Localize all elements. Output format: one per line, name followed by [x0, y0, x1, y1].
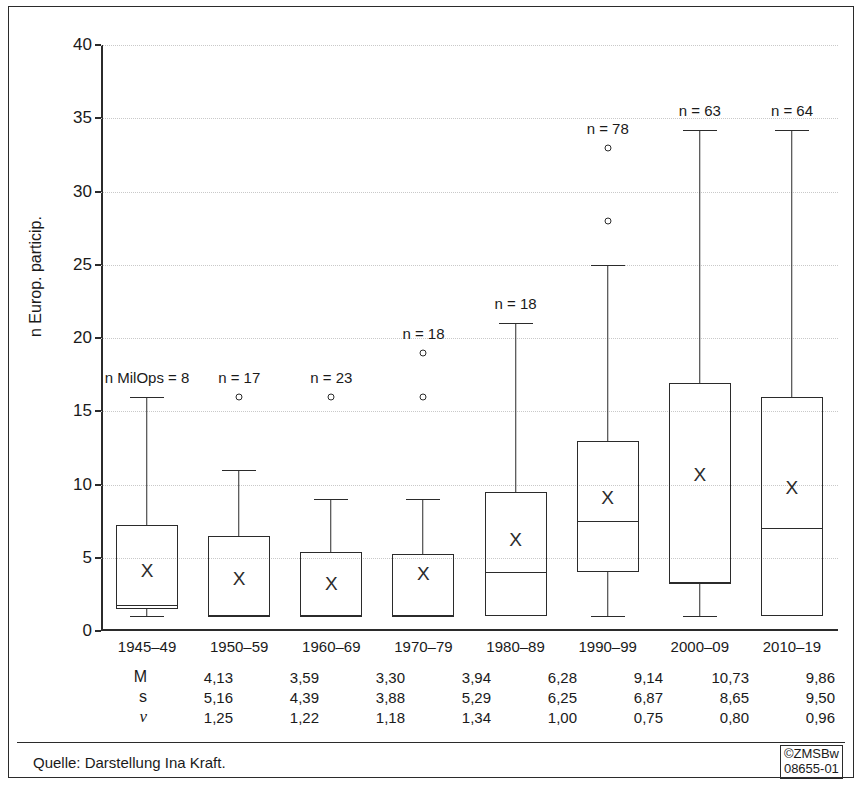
y-axis-tick-mark	[95, 630, 101, 632]
median-line	[761, 528, 823, 529]
statistics-cell: 0,75	[577, 707, 663, 727]
statistics-cell: 0,96	[749, 707, 835, 727]
statistics-cell: 6,28	[491, 667, 577, 687]
statistics-cell: 5,29	[405, 687, 491, 707]
y-axis-tick-mark	[95, 117, 101, 119]
footer-divider	[17, 742, 845, 743]
median-line	[300, 616, 362, 617]
x-axis-category-label: 1950–59	[210, 638, 268, 655]
statistics-row: M4,133,593,303,946,289,1410,739,86	[101, 667, 835, 687]
x-axis-category-label: 1960–69	[302, 638, 360, 655]
median-line	[392, 616, 454, 617]
statistics-cell: 1,00	[491, 707, 577, 727]
statistics-cell: 9,14	[577, 667, 663, 687]
box-iqr[interactable]	[761, 397, 823, 617]
whisker-upper	[699, 130, 700, 383]
whisker-lower	[146, 609, 147, 616]
y-axis-tick-label: 20	[73, 328, 92, 348]
y-axis-tick-label: 40	[73, 35, 92, 55]
whisker-upper	[791, 130, 792, 397]
y-axis-tick-mark	[95, 337, 101, 339]
whisker-lower	[607, 572, 608, 616]
outlier-point	[236, 393, 243, 400]
statistics-cell: 1,18	[319, 707, 405, 727]
mean-marker-x-icon: X	[509, 529, 522, 548]
outlier-point	[604, 217, 611, 224]
y-axis-tick-label: 30	[73, 182, 92, 202]
sample-size-label: n = 78	[587, 120, 629, 137]
outlier-point	[420, 349, 427, 356]
x-axis-category-label: 2010–19	[763, 638, 821, 655]
sample-size-label: n = 63	[679, 102, 721, 119]
whisker-cap-lower	[591, 616, 625, 617]
mean-marker-x-icon: X	[233, 569, 246, 588]
statistics-cell: 9,86	[749, 667, 835, 687]
statistics-row-label: M	[101, 667, 147, 687]
credit-box: ©ZMSBw 08655-01	[780, 745, 843, 779]
statistics-cell: 4,39	[233, 687, 319, 707]
credit-id: 08655-01	[784, 762, 839, 777]
whisker-cap-upper	[591, 265, 625, 266]
y-axis-tick-label: 25	[73, 255, 92, 275]
boxplot-group[interactable]: Xn = 63	[669, 45, 731, 631]
x-axis-category-label: 1970–79	[394, 638, 452, 655]
whisker-cap-upper	[130, 397, 164, 398]
x-axis-category-label: 1980–89	[486, 638, 544, 655]
whisker-cap-upper	[775, 130, 809, 131]
source-note: Quelle: Darstellung Ina Kraft.	[33, 754, 226, 771]
y-axis-tick-mark	[95, 557, 101, 559]
sample-size-label: n = 23	[310, 369, 352, 386]
sample-size-label: n MilOps = 8	[105, 369, 190, 386]
whisker-cap-upper	[222, 470, 256, 471]
boxplot-group[interactable]: Xn = 64	[761, 45, 823, 631]
statistics-row: s5,164,393,885,296,256,878,659,50	[101, 687, 835, 707]
y-axis-tick-label: 0	[83, 621, 92, 641]
x-axis-category-label: 1990–99	[578, 638, 636, 655]
statistics-table-body: M4,133,593,303,946,289,1410,739,86s5,164…	[101, 667, 835, 727]
boxplot-group[interactable]: Xn = 78	[577, 45, 639, 631]
statistics-cell: 4,13	[147, 667, 233, 687]
y-axis-tick-label: 15	[73, 401, 92, 421]
mean-marker-x-icon: X	[786, 477, 799, 496]
whisker-upper	[331, 499, 332, 552]
statistics-row-label: ν	[101, 707, 147, 727]
median-line	[669, 583, 731, 584]
whisker-cap-lower	[683, 616, 717, 617]
box-iqr[interactable]	[485, 492, 547, 617]
credit-publisher: ©ZMSBw	[784, 747, 839, 762]
statistics-row-label: s	[101, 687, 147, 707]
statistics-cell: 3,30	[319, 667, 405, 687]
boxplot-group[interactable]: Xn = 18	[392, 45, 454, 631]
statistics-cell: 8,65	[663, 687, 749, 707]
boxplot-group[interactable]: Xn = 18	[485, 45, 547, 631]
y-axis-tick-mark	[95, 410, 101, 412]
mean-marker-x-icon: X	[325, 573, 338, 592]
boxplot-group[interactable]: Xn = 23	[300, 45, 362, 631]
y-axis-tick-mark	[95, 191, 101, 193]
boxplot-group[interactable]: Xn MilOps = 8	[116, 45, 178, 631]
whisker-upper	[146, 397, 147, 525]
statistics-table: M4,133,593,303,946,289,1410,739,86s5,164…	[101, 667, 838, 727]
whisker-upper	[515, 323, 516, 491]
whisker-upper	[607, 265, 608, 441]
statistics-cell: 9,50	[749, 687, 835, 707]
median-line	[116, 605, 178, 606]
statistics-cell: 1,25	[147, 707, 233, 727]
sample-size-label: n = 18	[402, 325, 444, 342]
statistics-cell: 3,94	[405, 667, 491, 687]
plot-area: 0510152025303540 Xn MilOps = 8Xn = 17Xn …	[101, 45, 838, 631]
statistics-table-grid: M4,133,593,303,946,289,1410,739,86s5,164…	[101, 667, 835, 727]
median-line	[208, 616, 270, 617]
y-axis-tick-label: 10	[73, 475, 92, 495]
mean-marker-x-icon: X	[693, 464, 706, 483]
whisker-cap-upper	[683, 130, 717, 131]
statistics-row: ν1,251,221,181,341,000,750,800,96	[101, 707, 835, 727]
y-axis-label: n Europ. particip.	[27, 216, 45, 337]
outlier-point	[420, 393, 427, 400]
boxplot-group[interactable]: Xn = 17	[208, 45, 270, 631]
statistics-cell: 3,88	[319, 687, 405, 707]
statistics-cell: 0,80	[663, 707, 749, 727]
y-axis-tick-label: 5	[83, 548, 92, 568]
statistics-cell: 1,34	[405, 707, 491, 727]
x-axis-category-labels: 1945–491950–591960–691970–791980–891990–…	[101, 638, 838, 660]
